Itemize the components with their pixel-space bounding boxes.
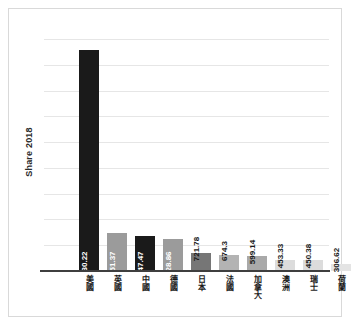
category-label: 加拿大 bbox=[243, 275, 271, 299]
bar-group: 453.33 bbox=[271, 39, 299, 271]
x-axis-category-labels: 美國英國中國德國日本法國加拿大澳洲瑞士荷蘭 bbox=[44, 275, 329, 321]
bar-group: 1,328.86 bbox=[159, 39, 187, 271]
chart-frame: Share 2018 9,030.221,551.371,447.471,328… bbox=[8, 8, 342, 317]
bar-group: 9,030.22 bbox=[75, 39, 103, 271]
category-label: 澳洲 bbox=[271, 275, 299, 291]
category-label: 瑞士 bbox=[299, 275, 327, 291]
bar-series: 9,030.221,551.371,447.471,328.86721.7867… bbox=[44, 39, 329, 271]
category-label: 日本 bbox=[187, 275, 215, 291]
category-label-text: 英國 bbox=[113, 275, 122, 291]
bar-value-text: 306.62 bbox=[333, 248, 341, 272]
bar-group: 599.14 bbox=[243, 39, 271, 271]
category-label-text: 法國 bbox=[225, 275, 234, 291]
bar-value-text: 599.14 bbox=[249, 240, 257, 264]
bar-value-text: 674.3 bbox=[221, 241, 229, 261]
category-label: 法國 bbox=[215, 275, 243, 291]
bar-value-text: 450.38 bbox=[305, 244, 313, 268]
category-label: 荷蘭 bbox=[327, 275, 355, 291]
bar-group: 450.38 bbox=[299, 39, 327, 271]
category-label: 德國 bbox=[159, 275, 187, 291]
bar-group: 1,447.47 bbox=[131, 39, 159, 271]
category-label-text: 荷蘭 bbox=[337, 275, 346, 291]
category-label: 英國 bbox=[103, 275, 131, 291]
x-axis-baseline bbox=[40, 270, 330, 272]
bar-group: 721.78 bbox=[187, 39, 215, 271]
category-label-text: 美國 bbox=[85, 275, 94, 291]
y-axis-title: Share 2018 bbox=[21, 97, 37, 207]
category-label-text: 中國 bbox=[141, 275, 150, 291]
bar-value-text: 453.33 bbox=[277, 244, 285, 268]
category-label-text: 日本 bbox=[197, 275, 206, 291]
category-label-text: 瑞士 bbox=[309, 275, 318, 291]
category-label-text: 澳洲 bbox=[281, 275, 290, 291]
bar-group: 1,551.37 bbox=[103, 39, 131, 271]
bar-value-text: 721.78 bbox=[193, 237, 201, 261]
bar[interactable] bbox=[79, 50, 99, 271]
plot-area: 9,030.221,551.371,447.471,328.86721.7867… bbox=[44, 39, 329, 271]
bar-group: 674.3 bbox=[215, 39, 243, 271]
category-label: 美國 bbox=[75, 275, 103, 291]
category-label-text: 加拿大 bbox=[253, 275, 262, 299]
bar-group: 306.62 bbox=[327, 39, 355, 271]
category-label: 中國 bbox=[131, 275, 159, 291]
y-axis-title-label: Share 2018 bbox=[24, 127, 34, 177]
category-label-text: 德國 bbox=[169, 275, 178, 291]
